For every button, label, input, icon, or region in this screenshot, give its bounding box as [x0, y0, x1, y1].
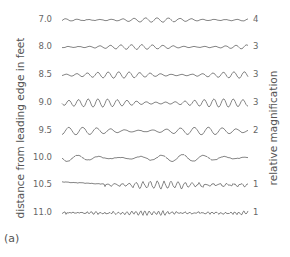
waveform-trace [62, 18, 248, 22]
waveform-trace [62, 155, 248, 162]
waveform-trace [62, 211, 248, 216]
waveform-traces [0, 0, 290, 257]
waveform-trace [62, 181, 248, 189]
waveform-trace [62, 99, 248, 107]
waveform-trace [62, 127, 248, 134]
panel-label: (a) [4, 232, 19, 245]
waveform-trace [62, 72, 248, 78]
waveform-trace [62, 45, 248, 50]
